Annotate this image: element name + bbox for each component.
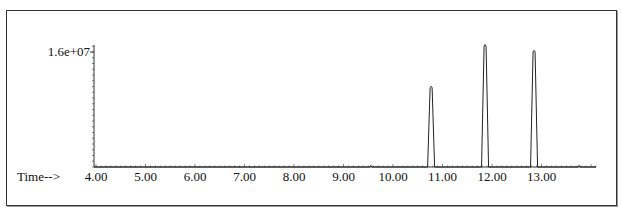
x-tick-label: 7.00 bbox=[233, 169, 256, 184]
x-tick-label: 13.00 bbox=[527, 169, 556, 184]
x-tick-label: 12.00 bbox=[477, 169, 506, 184]
x-tick-label: 10.00 bbox=[378, 169, 407, 184]
x-tick-label: 9.00 bbox=[332, 169, 355, 184]
chromatogram-trace bbox=[94, 45, 596, 167]
x-axis-label: Time--> bbox=[17, 169, 60, 184]
x-tick-label: 5.00 bbox=[134, 169, 157, 184]
x-tick-label: 8.00 bbox=[283, 169, 306, 184]
x-tick-label: 6.00 bbox=[184, 169, 207, 184]
x-tick-label: 4.00 bbox=[85, 169, 108, 184]
chromatogram-chart: 4.005.006.007.008.009.0010.0011.0012.001… bbox=[0, 0, 622, 213]
y-axis bbox=[90, 45, 94, 167]
x-tick-label: 11.00 bbox=[428, 169, 457, 184]
y-axis-max-label: 1.6e+07 bbox=[48, 44, 91, 59]
